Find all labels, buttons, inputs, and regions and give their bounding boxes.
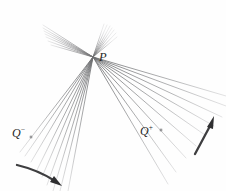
ray-bundle-lower-left xyxy=(20,57,93,191)
focal-point-label-text: P xyxy=(99,50,107,64)
ray-line xyxy=(25,57,93,156)
ray-bundle-upper-left xyxy=(43,25,93,57)
ray-focusing-figure: P Q− Q+ xyxy=(0,0,226,191)
ray-line xyxy=(93,57,176,172)
ray-line xyxy=(48,41,93,57)
q-minus-marker xyxy=(29,135,33,139)
q-plus-marker xyxy=(159,128,163,132)
q-minus-label-superscript: − xyxy=(21,125,25,134)
arrow-shaft xyxy=(195,126,210,154)
q-plus-label-superscript: + xyxy=(149,123,153,132)
arrow-lower-left xyxy=(17,165,62,186)
arrow-head xyxy=(50,176,62,186)
ray-line xyxy=(93,57,214,126)
ray-line xyxy=(93,57,226,106)
ray-bundle-lower-right xyxy=(93,57,226,184)
q-plus-label-base: Q xyxy=(140,124,149,138)
figure-canvas xyxy=(0,0,226,191)
ray-line xyxy=(31,57,93,162)
ray-line xyxy=(93,57,222,117)
ray-line xyxy=(37,57,93,170)
q-minus-label: Q− xyxy=(12,126,25,139)
arrow-shaft xyxy=(17,165,55,181)
focal-point-label: P xyxy=(99,51,107,64)
arrow-lower-right xyxy=(195,116,214,154)
ray-line xyxy=(53,57,93,191)
q-plus-label: Q+ xyxy=(140,124,153,137)
q-minus-label-base: Q xyxy=(12,126,21,140)
ray-line xyxy=(47,57,93,185)
ray-line xyxy=(68,57,93,191)
ray-line xyxy=(46,37,93,57)
ray-line xyxy=(93,57,186,158)
